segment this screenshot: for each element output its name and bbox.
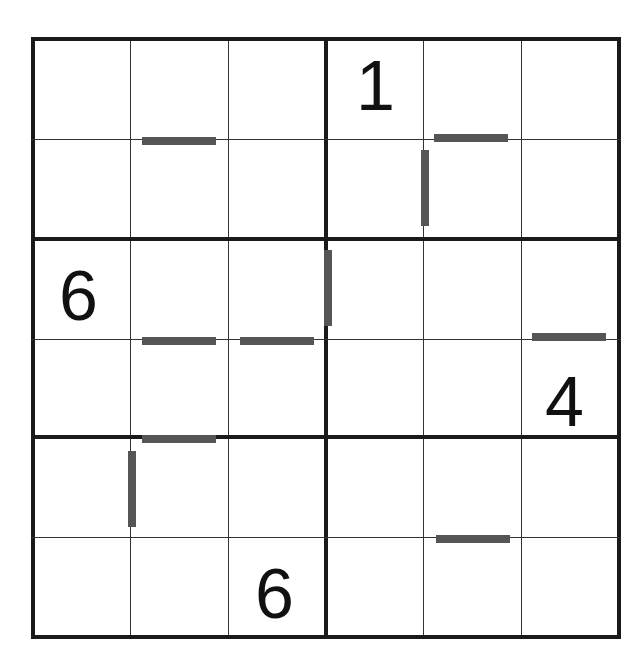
bar-clue-vertical bbox=[128, 451, 136, 527]
bar-clue-horizontal bbox=[142, 337, 216, 345]
given-digit: 1 bbox=[356, 51, 395, 121]
cell-r2c3[interactable] bbox=[326, 239, 423, 339]
bar-clue-vertical bbox=[324, 250, 332, 326]
cell-r3c1[interactable] bbox=[130, 339, 228, 437]
cell-r4c3[interactable] bbox=[326, 437, 423, 537]
cell-r4c2[interactable] bbox=[228, 437, 326, 537]
cell-r2c2[interactable] bbox=[228, 239, 326, 339]
cell-r1c0[interactable] bbox=[33, 139, 130, 239]
bar-clue-horizontal bbox=[142, 137, 216, 145]
cell-r1c1[interactable] bbox=[130, 139, 228, 239]
cell-r3c2[interactable] bbox=[228, 339, 326, 437]
cell-r0c2[interactable] bbox=[228, 39, 326, 139]
sudoku-board: 1646 bbox=[33, 39, 619, 637]
bar-clue-horizontal bbox=[436, 535, 510, 543]
grid-line bbox=[31, 139, 621, 140]
box-border-line bbox=[31, 37, 621, 41]
given-digit: 4 bbox=[545, 367, 584, 437]
cell-r0c1[interactable] bbox=[130, 39, 228, 139]
cell-r4c1[interactable] bbox=[130, 437, 228, 537]
given-digit: 6 bbox=[59, 261, 98, 331]
cell-r3c4[interactable] bbox=[423, 339, 521, 437]
cell-r4c5[interactable] bbox=[521, 437, 619, 537]
box-border-line bbox=[31, 435, 621, 439]
bar-clue-horizontal bbox=[240, 337, 314, 345]
cell-r4c4[interactable] bbox=[423, 437, 521, 537]
bar-clue-horizontal bbox=[142, 435, 216, 443]
cell-r4c0[interactable] bbox=[33, 437, 130, 537]
cell-r3c3[interactable] bbox=[326, 339, 423, 437]
cell-r0c4[interactable] bbox=[423, 39, 521, 139]
bar-clue-vertical bbox=[421, 150, 429, 226]
bar-clue-horizontal bbox=[434, 134, 508, 142]
cell-r2c5[interactable] bbox=[521, 239, 619, 339]
bar-clue-horizontal bbox=[532, 333, 606, 341]
grid-line bbox=[31, 537, 621, 538]
cell-r2c1[interactable] bbox=[130, 239, 228, 339]
cell-r3c0[interactable] bbox=[33, 339, 130, 437]
cell-r1c2[interactable] bbox=[228, 139, 326, 239]
cell-r1c5[interactable] bbox=[521, 139, 619, 239]
box-border-line bbox=[31, 635, 621, 639]
cell-r1c3[interactable] bbox=[326, 139, 423, 239]
cell-r5c4[interactable] bbox=[423, 537, 521, 637]
cell-r0c5[interactable] bbox=[521, 39, 619, 139]
cell-r5c1[interactable] bbox=[130, 537, 228, 637]
cell-r0c0[interactable] bbox=[33, 39, 130, 139]
cell-r2c4[interactable] bbox=[423, 239, 521, 339]
cell-r5c5[interactable] bbox=[521, 537, 619, 637]
cell-r5c3[interactable] bbox=[326, 537, 423, 637]
cell-r5c0[interactable] bbox=[33, 537, 130, 637]
box-border-line bbox=[31, 237, 621, 241]
given-digit: 6 bbox=[255, 559, 294, 629]
cell-r1c4[interactable] bbox=[423, 139, 521, 239]
